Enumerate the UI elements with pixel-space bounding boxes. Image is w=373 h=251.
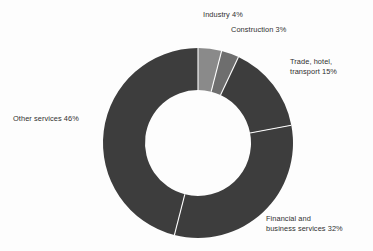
slice-label-construction: Construction 3% [231, 25, 286, 35]
slice-label-financial-business-services: Financial and business services 32% [266, 214, 343, 233]
slice-label-trade-hotel-transport: Trade, hotel, transport 15% [290, 57, 337, 76]
slice-label-other-services: Other services 46% [13, 114, 79, 124]
slice-label-industry: Industry 4% [203, 10, 243, 20]
donut-chart: Industry 4% Construction 3% Trade, hotel… [0, 0, 373, 251]
